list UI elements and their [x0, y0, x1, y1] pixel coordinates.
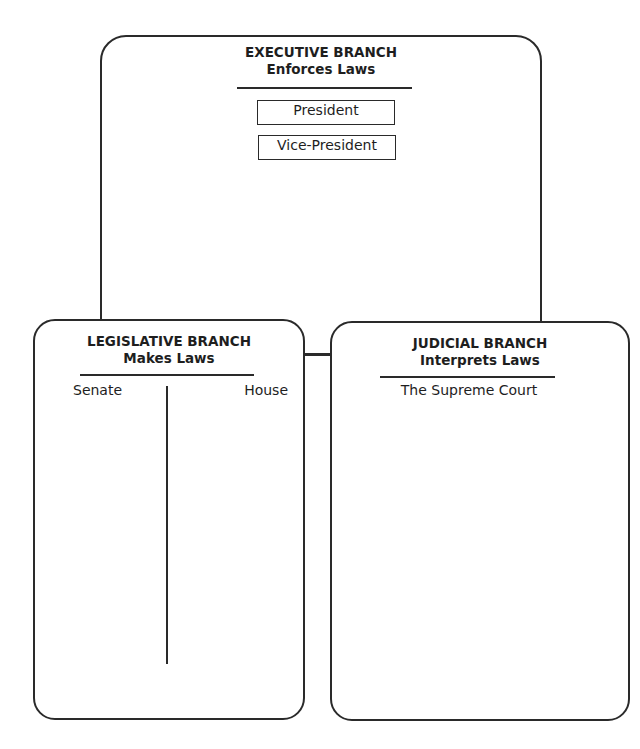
vice-president-box: Vice-President — [258, 135, 396, 160]
executive-title: EXECUTIVE BRANCH — [102, 44, 540, 61]
senate-label: Senate — [73, 381, 122, 399]
president-box: President — [257, 100, 395, 125]
judicial-branch-box: JUDICIAL BRANCH Interprets Laws The Supr… — [330, 321, 630, 721]
judicial-divider — [380, 376, 555, 378]
legislative-judicial-connector — [304, 354, 331, 356]
legislative-subtitle: Makes Laws — [35, 350, 303, 367]
executive-divider — [237, 87, 412, 89]
executive-branch-box: EXECUTIVE BRANCH Enforces Laws — [100, 35, 542, 355]
legislative-title: LEGISLATIVE BRANCH — [35, 333, 303, 350]
legislative-branch-box: LEGISLATIVE BRANCH Makes Laws Senate Hou… — [33, 319, 305, 720]
legislative-divider — [80, 374, 254, 376]
judicial-subtitle: Interprets Laws — [332, 352, 628, 369]
executive-subtitle: Enforces Laws — [102, 61, 540, 78]
senate-house-divider — [166, 386, 168, 664]
supreme-court-label: The Supreme Court — [332, 381, 606, 399]
house-label: House — [244, 381, 288, 399]
judicial-title: JUDICIAL BRANCH — [332, 335, 628, 352]
